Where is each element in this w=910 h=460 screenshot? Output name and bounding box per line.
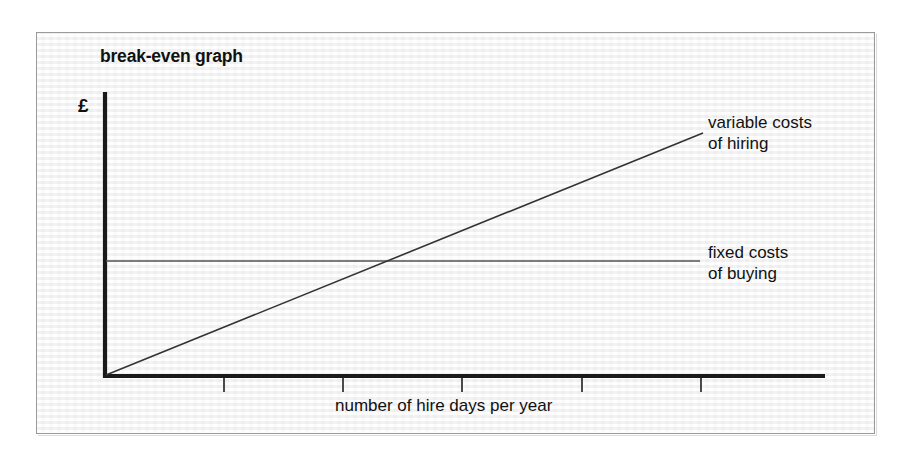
series-label-fixed-costs: fixed costs of buying <box>708 243 788 284</box>
chart-title: break-even graph <box>100 46 243 67</box>
y-axis-label: £ <box>78 94 89 117</box>
figure-border <box>36 32 875 434</box>
figure-page: break-even graph £ variable costs of hir… <box>0 0 910 460</box>
series-label-variable-costs: variable costs of hiring <box>708 113 812 154</box>
x-axis-label: number of hire days per year <box>335 396 552 417</box>
